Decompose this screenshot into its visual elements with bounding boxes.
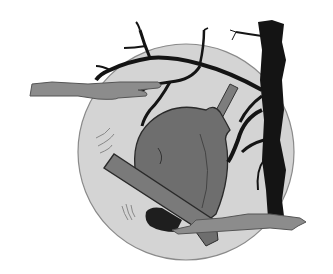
illustration-svg xyxy=(0,0,333,274)
illustration-canvas: Bell in moonlight with bare tree xyxy=(0,0,333,274)
cloud-left xyxy=(30,82,161,99)
